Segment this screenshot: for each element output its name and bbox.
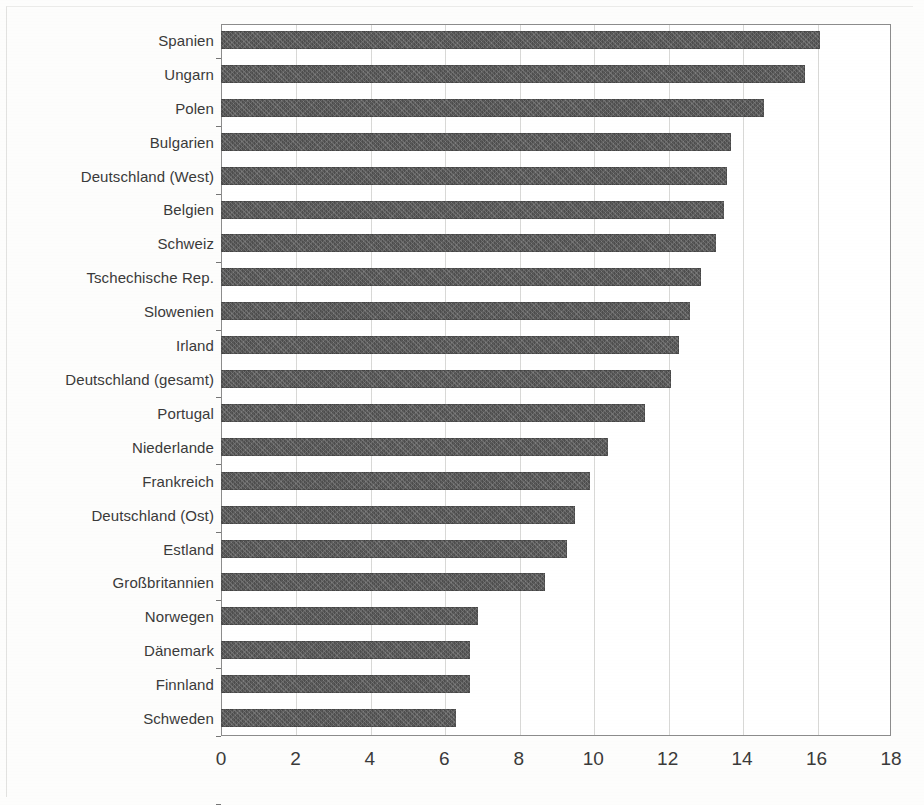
- category-label: Deutschland (gesamt): [0, 372, 214, 388]
- bar-row: [221, 329, 891, 363]
- bar: [221, 641, 470, 659]
- category-label: Finnland: [0, 677, 214, 693]
- category-axis-labels: SpanienUngarnPolenBulgarienDeutschland (…: [0, 24, 214, 736]
- category-label: Niederlande: [0, 440, 214, 456]
- category-label: Schweden: [0, 711, 214, 727]
- bar: [221, 607, 478, 625]
- bar-row: [221, 92, 891, 126]
- bar: [221, 336, 679, 354]
- value-tick-label: 10: [573, 748, 613, 770]
- category-label: Deutschland (Ost): [0, 508, 214, 524]
- value-tick-label: 4: [350, 748, 390, 770]
- bar: [221, 709, 456, 727]
- category-label: Tschechische Rep.: [0, 270, 214, 286]
- bar: [221, 438, 608, 456]
- bar: [221, 167, 727, 185]
- bar-row: [221, 160, 891, 194]
- bar-row: [221, 261, 891, 295]
- bar-row: [221, 533, 891, 567]
- category-label: Spanien: [0, 33, 214, 49]
- value-tick-label: 6: [424, 748, 464, 770]
- value-tick-label: 8: [499, 748, 539, 770]
- category-label: Schweiz: [0, 236, 214, 252]
- bar: [221, 99, 764, 117]
- bar: [221, 133, 731, 151]
- bar-row: [221, 465, 891, 499]
- value-tick-label: 12: [648, 748, 688, 770]
- value-tick-label: 2: [275, 748, 315, 770]
- bar: [221, 540, 567, 558]
- page-background: SpanienUngarnPolenBulgarienDeutschland (…: [0, 0, 924, 805]
- category-label: Slowenien: [0, 304, 214, 320]
- bar-row: [221, 397, 891, 431]
- bar: [221, 472, 590, 490]
- bar-row: [221, 227, 891, 261]
- bar-row: [221, 126, 891, 160]
- category-label: Dänemark: [0, 643, 214, 659]
- bar: [221, 506, 575, 524]
- category-label: Polen: [0, 101, 214, 117]
- bar: [221, 31, 820, 49]
- value-axis-labels: 024681012141618: [0, 748, 924, 778]
- category-label: Irland: [0, 338, 214, 354]
- category-tick: [216, 736, 221, 737]
- bar-row: [221, 566, 891, 600]
- bar: [221, 573, 545, 591]
- bar-row: [221, 194, 891, 228]
- category-label: Frankreich: [0, 474, 214, 490]
- bar-row: [221, 702, 891, 736]
- bar: [221, 234, 716, 252]
- bar: [221, 404, 645, 422]
- bar: [221, 65, 805, 83]
- value-tick-label: 16: [797, 748, 837, 770]
- bar-row: [221, 363, 891, 397]
- horizontal-bar-chart: SpanienUngarnPolenBulgarienDeutschland (…: [0, 0, 924, 805]
- bar: [221, 370, 671, 388]
- bar: [221, 268, 701, 286]
- category-label: Estland: [0, 542, 214, 558]
- category-label: Bulgarien: [0, 135, 214, 151]
- bar-row: [221, 295, 891, 329]
- category-label: Großbritannien: [0, 575, 214, 591]
- value-tick-label: 0: [201, 748, 241, 770]
- bar-row: [221, 668, 891, 702]
- bar-row: [221, 58, 891, 92]
- value-tick-label: 18: [871, 748, 911, 770]
- category-label: Norwegen: [0, 609, 214, 625]
- bar: [221, 201, 724, 219]
- category-label: Portugal: [0, 406, 214, 422]
- bar: [221, 675, 470, 693]
- bar-row: [221, 24, 891, 58]
- bar-row: [221, 431, 891, 465]
- bars-container: [221, 24, 891, 736]
- category-label: Ungarn: [0, 67, 214, 83]
- value-tick-label: 14: [722, 748, 762, 770]
- category-label: Deutschland (West): [0, 169, 214, 185]
- category-label: Belgien: [0, 202, 214, 218]
- bar-row: [221, 600, 891, 634]
- bar-row: [221, 634, 891, 668]
- bar: [221, 302, 690, 320]
- bar-row: [221, 499, 891, 533]
